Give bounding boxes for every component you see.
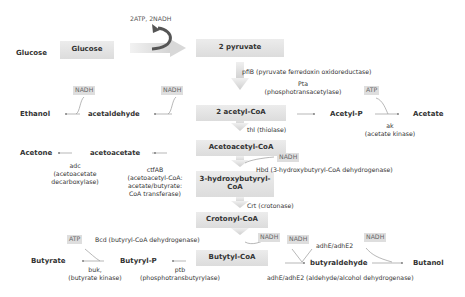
ak-enzyme: ak bbox=[360, 122, 420, 129]
atp-badge: ATP bbox=[364, 86, 379, 95]
hbd-enzyme: Hbd (3-hydroxybutyryl-CoA dehydrogenase) bbox=[256, 166, 393, 173]
butanol-label: Butanol bbox=[413, 259, 444, 267]
adc-enzyme: adc bbox=[35, 162, 115, 169]
ctfab-enzyme: ctfAB bbox=[115, 166, 195, 173]
nadh-badge: NADH bbox=[258, 233, 280, 242]
nadh-badge: NADH bbox=[287, 235, 309, 244]
ptb-enzyme: ptb bbox=[140, 266, 220, 273]
buk-enzyme: buk, bbox=[60, 266, 130, 273]
acetyl-p-label: Acetyl-P bbox=[330, 110, 363, 118]
nadh-badge: NADH bbox=[277, 153, 299, 162]
pta-enzyme: Pta bbox=[263, 80, 343, 87]
adhe-enzyme-top: adhE/adhE2 bbox=[316, 242, 353, 249]
nadh-badge: NADH bbox=[73, 86, 95, 95]
ctfab-enzyme-desc-1: (acetoacetyl-CoA: bbox=[115, 174, 195, 181]
butyrate-label: Butyrate bbox=[31, 257, 66, 265]
bcd-enzyme: Bcd (butyryl-CoA dehydrogenase) bbox=[95, 236, 200, 243]
pyruvate-box: 2 pyruvate bbox=[196, 39, 284, 57]
butyraldehyde-label: butyraldehyde bbox=[310, 259, 368, 267]
hydroxybutyryl-coa-box: 3-hydroxybutyryl-CoA bbox=[196, 171, 274, 197]
adhe-enzyme-bottom: adhE/adhE2 (aldehyde/alcohol dehydrogena… bbox=[267, 274, 414, 281]
ak-enzyme-desc: (acetate kinase) bbox=[360, 130, 420, 137]
acetoacetyl-coa-box: Acetoacetyl-CoA bbox=[196, 140, 286, 156]
butyryl-p-label: Butyryl-P bbox=[120, 257, 157, 265]
pta-enzyme-desc: (phosphotransacetylase) bbox=[258, 88, 348, 95]
adc-enzyme-desc-1: (acetoacetate bbox=[35, 170, 115, 177]
buk-enzyme-desc: (butyrate kinase) bbox=[55, 274, 135, 281]
crt-enzyme: Crt (crotonase) bbox=[247, 202, 294, 209]
adc-enzyme-desc-2: decarboxylase) bbox=[35, 178, 115, 185]
acetone-label: Acetone bbox=[20, 149, 52, 157]
energy-yield-label: 2ATP, 2NADH bbox=[130, 15, 171, 22]
ctfab-enzyme-desc-3: CoA transferase) bbox=[115, 190, 195, 197]
nadh-badge: NADH bbox=[161, 86, 183, 95]
pfib-enzyme: pfiB (pyruvate ferredoxin oxidoreductase… bbox=[242, 68, 371, 75]
butyryl-coa-box: Butytyl-CoA bbox=[196, 250, 268, 266]
acetaldehyde-label: acetaldehyde bbox=[88, 110, 140, 118]
acetoacetate-label: acetoacetate bbox=[90, 149, 140, 157]
glucose-label: Glucose bbox=[16, 49, 47, 57]
ethanol-label: Ethanol bbox=[20, 110, 50, 118]
crotonyl-coa-box: Crotonyl-CoA bbox=[196, 212, 268, 228]
glucose-box: Glucose bbox=[60, 41, 114, 59]
ctfab-enzyme-desc-2: acetate/butyrate: bbox=[115, 182, 195, 189]
nadh-badge: NADH bbox=[364, 233, 386, 242]
thl-enzyme: thl (thiolase) bbox=[247, 126, 286, 133]
atp-badge: ATP bbox=[67, 235, 82, 244]
acetyl-coa-box: 2 acetyl-CoA bbox=[196, 105, 286, 121]
ptb-enzyme-desc: (phosphotransbutyrylase) bbox=[130, 274, 230, 281]
acetate-label: Acetate bbox=[413, 110, 443, 118]
